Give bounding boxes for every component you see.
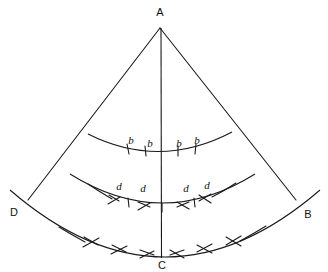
segment-label-b: b [147, 137, 153, 149]
axis-line-AC [161, 28, 162, 258]
segment-label-b: b [176, 137, 182, 149]
canvas-background [0, 0, 328, 272]
sector-figure-svg: A B C D b b b b d d d d [0, 0, 328, 272]
vertex-label-D: D [10, 206, 18, 218]
segment-label-d: d [116, 180, 122, 192]
vertex-label-A: A [156, 6, 164, 18]
segment-label-d: d [183, 182, 189, 194]
vertex-label-B: B [304, 208, 311, 220]
vertex-label-C: C [158, 259, 166, 271]
segment-label-b: b [128, 134, 134, 146]
geometry-diagram: A B C D b b b b d d d d [0, 0, 328, 272]
segment-label-d: d [140, 182, 146, 194]
segment-label-b: b [194, 134, 200, 146]
segment-label-d: d [204, 179, 210, 191]
